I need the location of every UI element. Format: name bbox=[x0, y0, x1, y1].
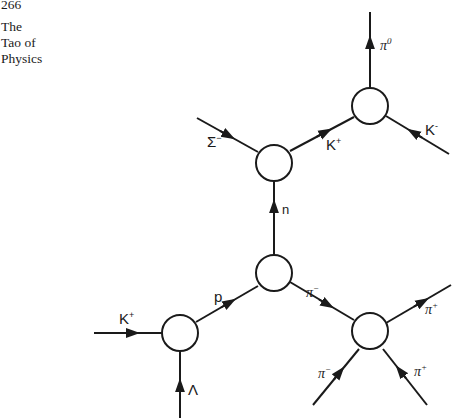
line-proton bbox=[196, 286, 258, 322]
label-pi-plus-in: π+ bbox=[414, 362, 427, 379]
label-k-minus: K- bbox=[425, 121, 438, 138]
label-pi-plus-out: π+ bbox=[425, 300, 438, 317]
label-neutron: n bbox=[282, 202, 289, 217]
label-proton: p bbox=[214, 288, 222, 305]
line-pi-plus-out bbox=[386, 285, 451, 323]
label-pi-zero: π0 bbox=[380, 36, 392, 53]
vertex-circle-v5 bbox=[352, 313, 388, 349]
vertex-circle-v3 bbox=[256, 145, 292, 181]
line-pi-minus-mid bbox=[290, 282, 354, 320]
label-sigma-minus: Σ− bbox=[207, 133, 222, 150]
particle-interaction-diagram: K+ Λ p n π− Σ− K+ π0 K- π+ π− π+ bbox=[0, 0, 456, 418]
label-k-plus-in: K+ bbox=[119, 310, 134, 327]
vertex-circle-v4 bbox=[352, 88, 388, 124]
vertex-circle-v1 bbox=[162, 315, 198, 351]
line-k-plus-upper bbox=[290, 117, 354, 151]
line-k-minus bbox=[386, 116, 449, 154]
label-pi-minus-in: π− bbox=[318, 364, 331, 381]
vertex-circle-v2 bbox=[256, 255, 292, 291]
label-lambda: Λ bbox=[188, 381, 198, 398]
label-k-plus-upper: K+ bbox=[326, 136, 341, 153]
